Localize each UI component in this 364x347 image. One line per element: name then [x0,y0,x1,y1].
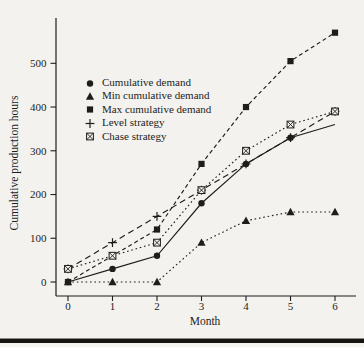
legend-item-min-cumulative-demand: Min cumulative demand [84,89,211,102]
circle-marker-icon [84,77,96,89]
y-axis-label: Cumulative production hours [8,95,21,230]
legend-item-level-strategy: Level strategy [84,116,211,129]
plus-marker-icon [84,117,96,129]
divider-rule [0,339,364,343]
x-axis-label: Month [190,315,221,327]
legend-label: Chase strategy [102,130,166,143]
svg-text:400: 400 [30,101,47,113]
chart-dynamic-layer: 01002003004005000123456 [30,18,356,312]
legend-label: Level strategy [102,116,165,129]
svg-text:6: 6 [332,300,338,312]
svg-text:500: 500 [30,57,47,69]
svg-text:1: 1 [110,300,116,312]
legend-item-chase-strategy: Chase strategy [84,130,211,143]
legend: Cumulative demand Min cumulative demand … [84,76,211,143]
legend-label: Min cumulative demand [102,89,210,102]
svg-text:100: 100 [30,232,47,244]
svg-text:2: 2 [154,300,160,312]
square-marker-icon [84,103,96,115]
svg-text:5: 5 [288,300,294,312]
legend-item-max-cumulative-demand: Max cumulative demand [84,103,211,116]
svg-text:300: 300 [30,145,47,157]
triangle-marker-icon [84,90,96,102]
figure: 01002003004005000123456 Cumulative produ… [0,0,364,347]
svg-text:3: 3 [199,300,205,312]
chart-canvas: 01002003004005000123456 Cumulative produ… [0,0,364,336]
svg-text:0: 0 [65,300,71,312]
boxed-x-marker-icon [84,130,96,142]
legend-label: Max cumulative demand [102,103,211,116]
svg-text:4: 4 [243,300,249,312]
legend-item-cumulative-demand: Cumulative demand [84,76,211,89]
legend-label: Cumulative demand [102,76,191,89]
svg-text:200: 200 [30,188,47,200]
svg-text:0: 0 [41,276,47,288]
